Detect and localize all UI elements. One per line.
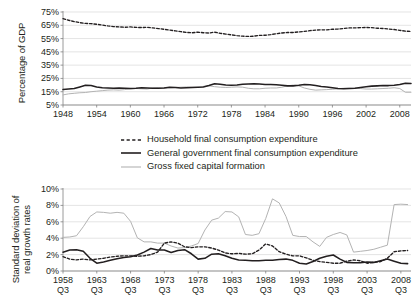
- x-tick-label: 1978Q3: [188, 275, 208, 295]
- series-line: [63, 199, 408, 252]
- legend-item[interactable]: General government final consumption exp…: [120, 147, 358, 161]
- legend-label: General government final consumption exp…: [147, 147, 358, 161]
- chart-share-of-gdp: Percentage of GDP 5%15%25%35%45%55%65%75…: [0, 0, 413, 131]
- x-tick-label: 1978: [221, 109, 241, 119]
- chart-volatility: Standard deviation ofreal growth rates 0…: [0, 175, 413, 306]
- plot-area-bottom: [0, 175, 413, 273]
- x-tick-label: 1954: [87, 109, 107, 119]
- x-tick-label: 2008: [390, 109, 410, 119]
- legend-item[interactable]: Gross fixed capital formation: [120, 160, 358, 174]
- legend-item[interactable]: Household final consumption expenditure: [120, 133, 358, 147]
- legend: Household final consumption expenditureG…: [120, 133, 358, 174]
- x-tick-label: 1972: [188, 109, 208, 119]
- legend-swatch-icon: [120, 148, 142, 158]
- x-tick-label: 1966: [154, 109, 174, 119]
- plot-area-top: [0, 0, 413, 107]
- x-tick-label: 1983Q3: [222, 275, 242, 295]
- x-tick-label: 1990: [289, 109, 309, 119]
- x-tick-label: 1996: [322, 109, 342, 119]
- series-line: [63, 85, 411, 95]
- x-tick-label: 1988Q3: [256, 275, 276, 295]
- figure-root: Percentage of GDP 5%15%25%35%45%55%65%75…: [0, 0, 413, 306]
- x-tick-label: 1973Q3: [154, 275, 174, 295]
- legend-label: Household final consumption expenditure: [147, 133, 318, 147]
- x-tick-label: 2008Q3: [391, 275, 411, 295]
- x-tick-label: 1968Q3: [121, 275, 141, 295]
- x-tick-label: 2002: [356, 109, 376, 119]
- x-tick-label: 1984: [255, 109, 275, 119]
- legend-label: Gross fixed capital formation: [147, 160, 265, 174]
- x-tick-label: 1960: [120, 109, 140, 119]
- x-tick-label: 1958Q3: [53, 275, 73, 295]
- x-tick-label: 1993Q3: [289, 275, 309, 295]
- series-line: [63, 19, 411, 37]
- x-tick-label: 2003Q3: [357, 275, 377, 295]
- x-tick-label: 1948: [53, 109, 73, 119]
- legend-swatch-icon: [120, 135, 142, 145]
- x-tick-label: 1998Q3: [323, 275, 343, 295]
- legend-swatch-icon: [120, 162, 142, 172]
- x-tick-label: 1963Q3: [87, 275, 107, 295]
- legend-panel: Household final consumption expenditureG…: [0, 131, 413, 175]
